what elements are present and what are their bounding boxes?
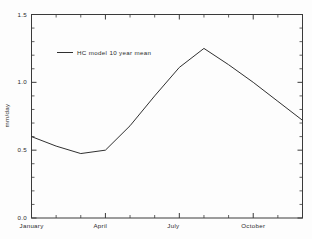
x-tick-label: July: [167, 222, 179, 229]
chart-figure: mm/day 0.00.51.01.5 JanuaryAprilJulyOcto…: [0, 0, 312, 239]
legend-entry-label: HC model 10 year mean: [77, 49, 151, 56]
data-series-line: [32, 48, 303, 153]
y-tick-label: 0.5: [9, 146, 27, 153]
legend-line-swatch: [57, 52, 73, 53]
y-axis-major-ticks: [32, 15, 303, 219]
y-tick-label: 1.5: [9, 11, 27, 18]
x-axis-major-ticks: [32, 15, 254, 219]
x-tick-label: April: [93, 222, 107, 229]
plot-frame: [32, 15, 303, 219]
y-axis-label: mm/day: [3, 101, 10, 131]
legend: HC model 10 year mean: [57, 49, 151, 56]
y-tick-label: 0.0: [9, 214, 27, 221]
plot-canvas: [0, 0, 312, 239]
x-axis-minor-ticks: [56, 15, 302, 219]
x-tick-label: October: [241, 222, 265, 229]
x-tick-label: January: [20, 222, 44, 229]
y-tick-label: 1.0: [9, 78, 27, 85]
